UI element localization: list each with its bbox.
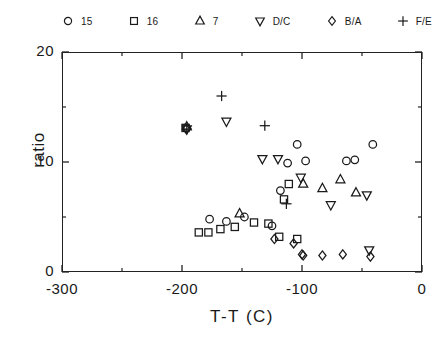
series-F-E (182, 91, 292, 209)
data-point-triangle-up (235, 209, 244, 217)
data-point-triangle-down (258, 156, 267, 164)
xtick-label: -200 (147, 280, 217, 297)
series-D-C (182, 118, 373, 255)
data-point-circle (302, 157, 310, 165)
data-point-circle (369, 141, 377, 149)
data-point-triangle-down (273, 156, 282, 164)
xtick-label: 0 (387, 280, 444, 297)
series-16 (182, 124, 301, 242)
data-point-circle (343, 157, 351, 165)
data-point-plus (260, 121, 270, 131)
data-point-square (195, 229, 202, 236)
data-point-triangle-down (222, 118, 231, 126)
data-point-circle (293, 141, 301, 149)
y-axis-label: ratio (29, 105, 49, 195)
ytick-label: 0 (8, 262, 54, 279)
data-point-triangle-down (362, 192, 371, 200)
data-point-diamond (339, 250, 346, 259)
x-axis-label: T-T (C) (62, 307, 422, 327)
data-point-circle (206, 215, 214, 223)
chart-canvas: 15167D/CB/AF/E 0 10 20 -300 -200 -100 0 … (0, 0, 444, 347)
data-point-square (205, 229, 212, 236)
xtick-label: -100 (267, 280, 337, 297)
data-point-plus (216, 91, 226, 101)
data-point-triangle-up (351, 188, 360, 196)
ytick-label: 20 (8, 42, 54, 59)
xtick-label: -300 (27, 280, 97, 297)
data-point-triangle-down (326, 202, 335, 210)
data-point-triangle-up (336, 174, 345, 182)
data-point-square (231, 223, 238, 230)
data-point-triangle-up (318, 183, 327, 191)
data-point-plus (281, 199, 291, 209)
data-point-diamond (271, 234, 278, 243)
data-point-square (294, 235, 301, 242)
series-7 (182, 122, 360, 217)
data-point-square (217, 225, 224, 232)
data-point-circle (277, 187, 285, 195)
data-point-diamond (319, 251, 326, 260)
data-point-square (250, 219, 257, 226)
data-point-circle (284, 159, 292, 167)
data-point-circle (351, 156, 359, 164)
data-point-square (285, 180, 292, 187)
series-15 (182, 124, 376, 229)
data-point-circle (223, 218, 231, 226)
axis-ticks (62, 52, 422, 272)
